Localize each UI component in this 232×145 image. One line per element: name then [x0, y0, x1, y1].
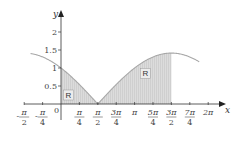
svg-text:4: 4: [40, 118, 45, 127]
svg-text:π: π: [94, 108, 101, 117]
x-ticks: π2-π4-π4π23π4π5π43π27π42π: [16, 102, 214, 127]
x-tick-label: π: [131, 108, 138, 117]
svg-text:3π: 3π: [111, 108, 122, 117]
graph: x y 0 π2-π4-π4π23π4π5π43π27π42π 0.511.52…: [0, 0, 232, 145]
svg-text:3π: 3π: [166, 108, 177, 117]
svg-text:π: π: [39, 108, 46, 117]
x-tick-label: π2-: [16, 108, 29, 127]
svg-text:2: 2: [169, 118, 174, 127]
region-label-r: R: [142, 69, 148, 78]
region-label-r: R: [66, 91, 72, 100]
shaded-region-r: [61, 53, 171, 104]
svg-text:5π: 5π: [148, 108, 159, 117]
y-tick-label: 2: [52, 28, 57, 37]
origin-label: 0: [54, 106, 59, 115]
svg-text:-: -: [16, 112, 19, 121]
svg-text:4: 4: [77, 118, 82, 127]
y-axis-label: y: [52, 9, 59, 19]
x-tick-label: 7π4: [185, 108, 196, 127]
x-axis-label: x: [225, 105, 230, 115]
svg-text:7π: 7π: [185, 108, 196, 117]
y-tick-label: 1: [52, 64, 57, 73]
x-tick-label: π4-: [35, 108, 48, 127]
y-tick-label: 0.5: [44, 82, 57, 91]
svg-text:2: 2: [95, 118, 100, 127]
x-tick-label: 5π4: [148, 108, 159, 127]
svg-text:4: 4: [114, 118, 119, 127]
x-tick-label: 2π: [202, 108, 214, 117]
x-tick-label: π4: [74, 108, 84, 127]
y-axis-arrow-icon: [58, 10, 64, 17]
y-tick-label: 1.5: [44, 46, 57, 55]
svg-text:2π: 2π: [202, 108, 214, 117]
svg-text:π: π: [21, 108, 28, 117]
x-tick-label: π2: [93, 108, 103, 127]
svg-text:π: π: [76, 108, 83, 117]
svg-text:-: -: [35, 112, 38, 121]
svg-text:2: 2: [22, 118, 27, 127]
svg-text:4: 4: [150, 118, 155, 127]
svg-text:4: 4: [187, 118, 192, 127]
x-tick-label: 3π2: [166, 108, 177, 127]
x-tick-label: 3π4: [111, 108, 122, 127]
svg-text:π: π: [131, 108, 138, 117]
